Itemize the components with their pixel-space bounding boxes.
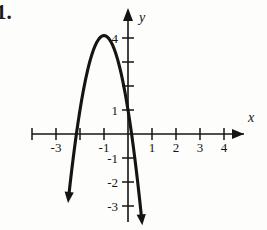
y-axis-arrowhead	[123, 8, 133, 21]
x-axis-group: x	[32, 110, 255, 140]
x-axis-arrowhead	[232, 129, 244, 139]
curve-arrowhead-right	[137, 214, 146, 225]
x-tick-label-neg3: -3	[51, 140, 62, 155]
x-tick-label-3: 3	[197, 140, 204, 155]
y-tick-label-neg2: -2	[107, 175, 118, 190]
y-tick-label-1: 1	[112, 103, 119, 118]
coordinate-plot: x y -3 -1 1 2 3 4 4 1 -1 -2 -3	[0, 0, 267, 230]
y-axis-label: y	[137, 10, 146, 25]
y-tick-label-neg1: -1	[107, 151, 118, 166]
curve-arrowhead-left	[65, 192, 74, 204]
x-tick-label-4: 4	[221, 140, 228, 155]
x-tick-label-2: 2	[173, 140, 180, 155]
x-axis-label: x	[247, 110, 255, 125]
y-tick-label-neg3: -3	[107, 199, 118, 214]
math-figure-parabola: 1. x y	[0, 0, 267, 230]
x-tick-label-1: 1	[149, 140, 156, 155]
y-axis-group: y	[122, 8, 146, 222]
